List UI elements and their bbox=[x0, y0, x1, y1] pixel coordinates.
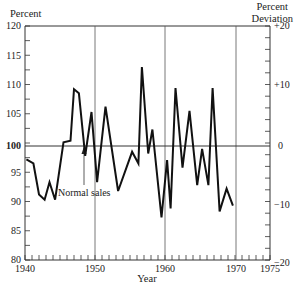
y-tick-label: 120 bbox=[6, 20, 21, 31]
y2-tick-label: −10 bbox=[274, 199, 290, 210]
y-tick-label: 85 bbox=[11, 225, 21, 236]
y-tick-label: 115 bbox=[6, 50, 21, 61]
chart-canvas: Percent Percent Deviation Year 120 115 bbox=[0, 0, 299, 290]
x-axis-title: Year bbox=[137, 273, 157, 284]
y2-tick-label: +20 bbox=[274, 20, 290, 31]
normal-sales-label: Normal sales bbox=[58, 187, 111, 198]
y2-tick-label: +10 bbox=[274, 79, 290, 90]
y2-axis-title-line1: Percent bbox=[257, 1, 289, 12]
y-axis-title: Percent bbox=[10, 8, 42, 19]
y2-tick-label: 0 bbox=[278, 140, 283, 151]
y-tick-label: 105 bbox=[6, 108, 21, 119]
y-tick-label: 95 bbox=[11, 167, 21, 178]
y-axis-ticks bbox=[25, 26, 30, 260]
sales-deviation-chart: Percent Percent Deviation Year 120 115 bbox=[0, 0, 299, 290]
x-tick-label: 1940 bbox=[15, 263, 35, 274]
x-tick-label: 1950 bbox=[85, 263, 105, 274]
y-tick-label: 100 bbox=[6, 140, 21, 151]
y-tick-label: 110 bbox=[6, 79, 21, 90]
y2-axis-labels: +20 +10 0 −10 −20 bbox=[274, 20, 290, 268]
x-tick-label: 1970 bbox=[226, 263, 246, 274]
y-axis-labels: 120 115 110 105 100 95 90 85 80 bbox=[6, 20, 21, 265]
x-tick-label: 1960 bbox=[155, 263, 175, 274]
y-tick-label: 90 bbox=[11, 196, 21, 207]
x-tick-label: 1975 bbox=[260, 263, 280, 274]
x-axis-ticks bbox=[25, 255, 270, 260]
y2-axis-ticks bbox=[265, 26, 270, 260]
